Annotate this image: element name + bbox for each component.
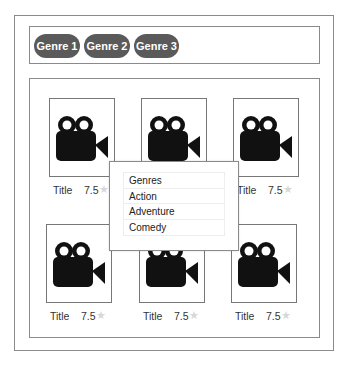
star-icon[interactable]: ★ xyxy=(189,309,199,322)
genre-option-adventure[interactable]: Adventure xyxy=(124,204,224,220)
movie-rating: 7.5 xyxy=(266,310,281,322)
star-icon[interactable]: ★ xyxy=(96,309,106,322)
movie-camera-icon xyxy=(52,241,106,287)
movie-title[interactable]: Title xyxy=(50,310,69,322)
genre-pill-2[interactable]: Genre 2 xyxy=(84,34,130,58)
movie-rating: 7.5 xyxy=(268,184,283,196)
genre-option-comedy[interactable]: Comedy xyxy=(124,220,224,236)
star-icon[interactable]: ★ xyxy=(283,183,293,196)
genre-dropdown-popup: Genres Action Adventure Comedy xyxy=(109,161,239,251)
genre-option-action[interactable]: Action xyxy=(124,189,224,205)
star-icon[interactable]: ★ xyxy=(99,183,109,196)
genre-filter-bar: Genre 1 Genre 2 Genre 3 xyxy=(29,26,320,64)
genre-list: Genres Action Adventure Comedy xyxy=(123,172,225,236)
movie-title[interactable]: Title xyxy=(235,310,254,322)
movie-rating: 7.5 xyxy=(174,310,189,322)
movie-camera-icon xyxy=(239,115,293,161)
genre-pill-3[interactable]: Genre 3 xyxy=(134,34,179,58)
movie-rating: 7.5 xyxy=(84,184,99,196)
movie-camera-icon xyxy=(147,115,201,161)
movie-rating: 7.5 xyxy=(81,310,96,322)
movie-thumbnail[interactable] xyxy=(233,98,299,177)
movie-thumbnail[interactable] xyxy=(231,224,297,303)
movie-thumbnail[interactable] xyxy=(46,224,112,303)
star-icon[interactable]: ★ xyxy=(281,309,291,322)
movie-camera-icon xyxy=(237,241,291,287)
movie-title[interactable]: Title xyxy=(143,310,162,322)
movie-title[interactable]: Title xyxy=(53,184,72,196)
movie-thumbnail[interactable] xyxy=(49,98,115,177)
genre-option-header[interactable]: Genres xyxy=(124,173,224,189)
movie-title[interactable]: Title xyxy=(237,184,256,196)
genre-pill-1[interactable]: Genre 1 xyxy=(34,34,80,58)
movie-camera-icon xyxy=(55,115,109,161)
